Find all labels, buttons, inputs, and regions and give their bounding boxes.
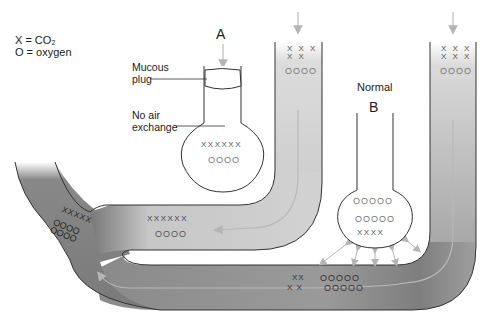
diagram-canvas bbox=[0, 0, 487, 319]
shunt-diagram: X = CO₂ O = oxygen A Mucous plug No air … bbox=[0, 0, 487, 319]
left-vessel-co2: X X X X X bbox=[287, 45, 317, 61]
alveolus-a-co2: XXXXXX bbox=[201, 140, 242, 149]
normal-label: Normal bbox=[357, 81, 392, 93]
bottom-vessel-co2-row1: XX bbox=[292, 273, 305, 282]
middle-vessel-co2: XXXXXX bbox=[147, 214, 188, 223]
alveolus-a-label: A bbox=[216, 26, 225, 42]
legend-oxygen: O = oxygen bbox=[15, 46, 72, 58]
alveolus-b-o2-row2: OOOOO bbox=[355, 214, 395, 224]
legend-co2: X = CO₂ bbox=[15, 34, 72, 46]
right-vessel-o2: OOOO bbox=[440, 66, 472, 76]
legend: X = CO₂ O = oxygen bbox=[15, 34, 72, 58]
alveolus-b-o2-row1: OOOOO bbox=[353, 196, 393, 206]
mucous-plug-label: Mucous plug bbox=[132, 61, 169, 85]
bottom-vessel-o2-row2: OOOOO bbox=[324, 283, 364, 293]
left-vessel-o2: OOOO bbox=[285, 66, 317, 76]
alveolus-b-co2: XXXX bbox=[357, 228, 384, 237]
right-vessel-co2: X X X X X X bbox=[441, 45, 471, 61]
bottom-vessel-o2-row1: OOOOO bbox=[320, 273, 360, 283]
bottom-vessel-co2-row2: X X bbox=[287, 283, 303, 292]
no-air-exchange-label: No air exchange bbox=[132, 109, 178, 133]
middle-vessel-o2: OOOO bbox=[155, 229, 187, 239]
alveolus-b-label: B bbox=[369, 99, 378, 115]
mucous-plug bbox=[205, 69, 241, 90]
alveolus-a-o2: OOOO bbox=[208, 155, 240, 165]
